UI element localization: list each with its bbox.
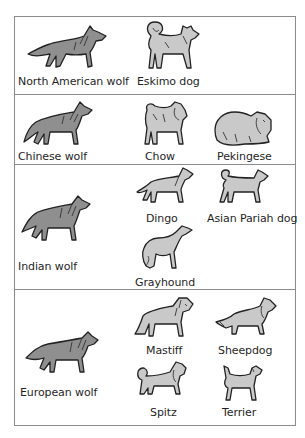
mastiff-icon <box>133 294 197 340</box>
european-wolf-icon <box>24 330 100 378</box>
dingo-icon <box>135 164 197 206</box>
row-divider <box>14 94 296 95</box>
spitz-icon <box>134 360 192 400</box>
wolf-label: Indian wolf <box>18 260 77 273</box>
dog-label: Chow <box>145 150 175 163</box>
row-divider <box>14 289 296 290</box>
pekingese-icon <box>213 108 273 148</box>
dog-label: Spitz <box>150 406 177 419</box>
pariah-dog-icon <box>216 166 272 206</box>
chinese-wolf-icon <box>20 98 96 148</box>
dog-label: Asian Pariah dog <box>207 212 297 225</box>
wolf-label: Chinese wolf <box>18 150 87 163</box>
sheepdog-icon <box>214 296 280 338</box>
north-american-wolf-icon <box>26 22 110 72</box>
dog-label: Sheepdog <box>218 344 272 357</box>
eskimo-dog-icon <box>143 20 201 74</box>
dog-label: Terrier <box>222 406 256 419</box>
dog-label: Pekingese <box>217 150 272 163</box>
dog-label: Mastiff <box>146 344 182 357</box>
dog-label: Eskimo dog <box>137 75 200 88</box>
terrier-icon <box>220 364 264 404</box>
indian-wolf-icon <box>20 194 94 246</box>
wolf-label: North American wolf <box>18 75 129 88</box>
chow-icon <box>143 100 189 148</box>
dog-label: Grayhound <box>135 276 195 289</box>
wolf-label: European wolf <box>20 386 97 399</box>
greyhound-icon <box>138 224 194 272</box>
